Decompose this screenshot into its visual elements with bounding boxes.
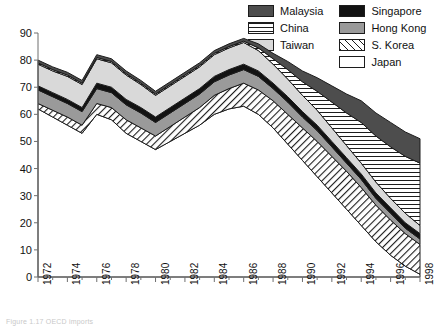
chart-page: Malaysia Singapore China Hong Kong Taiwa… bbox=[0, 0, 446, 330]
figure-footnote: Figure 1.17 OECD imports bbox=[6, 318, 93, 325]
x-tick-label: 1992 bbox=[336, 263, 347, 285]
x-tick-label: 1980 bbox=[160, 263, 171, 285]
x-tick-label: 1996 bbox=[395, 263, 406, 285]
x-tick-label: 1986 bbox=[248, 263, 259, 285]
plot-area: 0102030405060708090 19721974197619781980… bbox=[0, 0, 446, 330]
x-tick-label: 1994 bbox=[365, 263, 376, 285]
x-tick-label: 1984 bbox=[218, 263, 229, 285]
x-tick-label: 1976 bbox=[101, 263, 112, 285]
x-tick-label: 1972 bbox=[42, 263, 53, 285]
x-axis-labels: 1972197419761978198019821984198619881990… bbox=[0, 0, 446, 330]
x-tick-label: 1998 bbox=[424, 263, 435, 285]
x-tick-label: 1978 bbox=[130, 263, 141, 285]
x-tick-label: 1982 bbox=[189, 263, 200, 285]
x-tick-label: 1974 bbox=[71, 263, 82, 285]
x-tick-label: 1988 bbox=[277, 263, 288, 285]
x-tick-label: 1990 bbox=[306, 263, 317, 285]
